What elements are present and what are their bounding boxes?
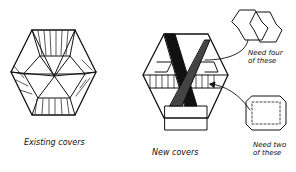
- need-two-label: Need two of these: [253, 141, 286, 157]
- need-four-line2: of these: [248, 57, 283, 65]
- need-four-label: Need four of these: [248, 49, 283, 65]
- new-covers-label: New covers: [152, 148, 198, 157]
- existing-covers-label: Existing covers: [24, 138, 85, 147]
- existing-covers-figure: [11, 30, 96, 115]
- need-four-line1: Need four: [248, 49, 283, 57]
- need-two-line2: of these: [253, 149, 286, 157]
- need-two-line1: Need two: [253, 141, 286, 149]
